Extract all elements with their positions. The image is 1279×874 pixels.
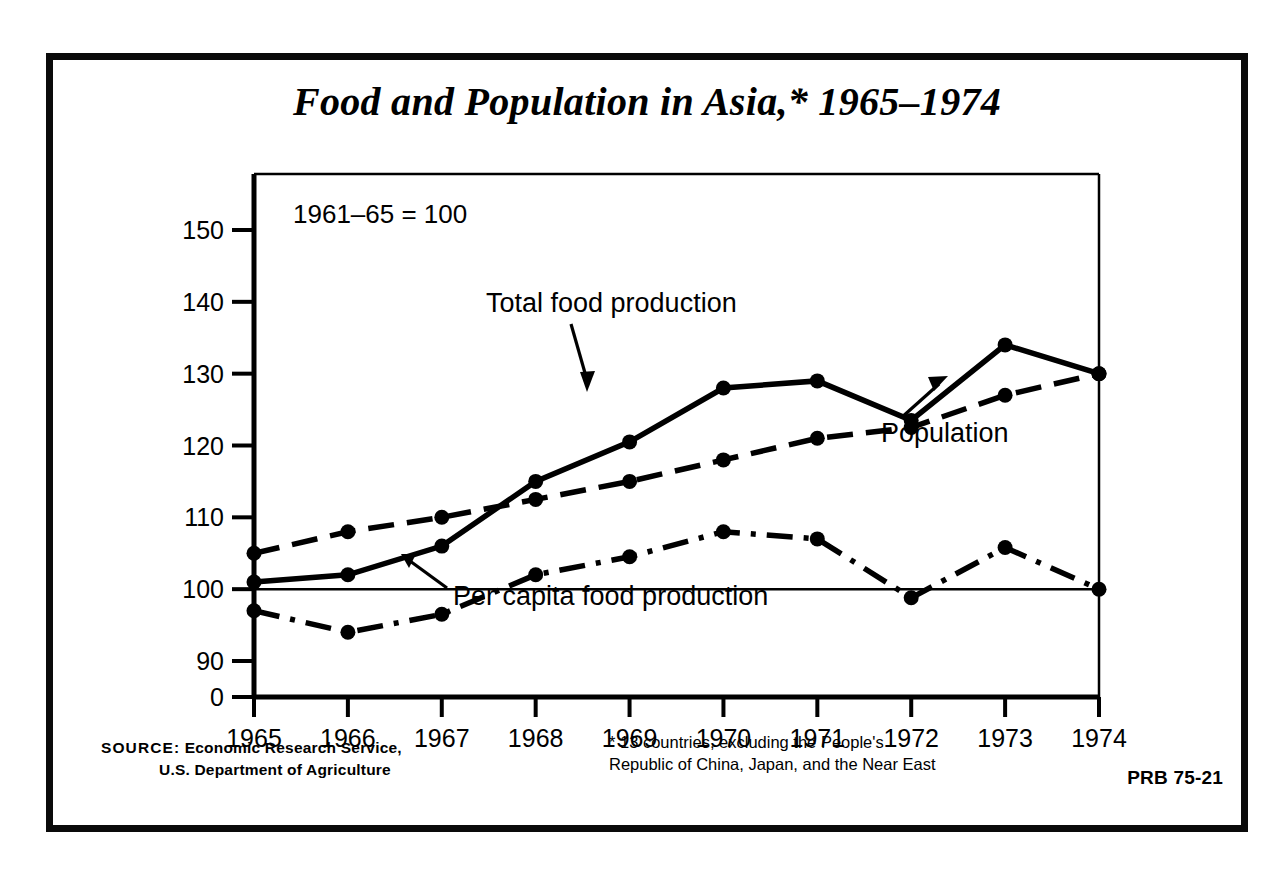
annotation-per-capita: Per capita food production [401,554,768,611]
data-point-marker [528,474,543,489]
data-point-marker [340,567,355,582]
y-tick-label: 140 [182,288,224,316]
data-point-marker [434,510,449,525]
series-solid [247,337,1107,589]
y-tick-label: 90 [196,647,224,675]
population-arrowhead [928,376,948,391]
data-point-marker [998,337,1013,352]
y-tick-label: 130 [182,360,224,388]
total-food-arrow [571,324,587,380]
per-capita-arrowhead [401,554,416,568]
y-axis-ticks: 090100110120130140150 [182,216,254,711]
data-point-marker [340,524,355,539]
data-point-marker [622,434,637,449]
per-capita-arrow [410,561,447,588]
data-point-marker [247,603,262,618]
annotation-total-food: Total food production [486,288,737,392]
total-food-arrowhead [580,371,595,392]
data-point-marker [1092,366,1107,381]
series-line [254,374,1099,554]
data-point-marker [247,546,262,561]
population-label: Population [881,418,1009,448]
data-point-marker [247,575,262,590]
y-tick-label: 150 [182,216,224,244]
data-point-marker [716,452,731,467]
series-dashed [247,366,1107,561]
data-point-marker [340,625,355,640]
y-tick-label: 100 [182,575,224,603]
y-tick-label: 120 [182,432,224,460]
chart-container: 090100110120130140150 196519661967196819… [53,60,1255,839]
data-point-marker [622,474,637,489]
data-point-marker [434,539,449,554]
footer-block: SOURCE: Economic Research Service, U.S. … [53,731,1241,811]
source-line-1: Economic Research Service, [180,739,402,756]
data-point-marker [810,531,825,546]
data-point-marker [716,381,731,396]
y-tick-label: 0 [210,683,224,711]
source-line-2: U.S. Department of Agriculture [101,759,402,781]
publication-code: PRB 75-21 [1127,767,1223,789]
line-chart: 090100110120130140150 196519661967196819… [53,60,1255,839]
data-point-marker [1092,582,1107,597]
index-base-note: 1961–65 = 100 [293,199,467,229]
footnote-asterisk: * 13 countries, excluding the People's R… [609,731,939,776]
poster-frame: Food and Population in Asia,* 1965–1974 … [46,53,1248,832]
poster-canvas: Food and Population in Asia,* 1965–1974 … [0,0,1279,874]
data-point-marker [528,492,543,507]
data-point-marker [904,590,919,605]
data-point-marker [998,388,1013,403]
y-tick-label: 110 [184,503,224,531]
data-point-marker [622,549,637,564]
data-point-marker [998,540,1013,555]
data-point-marker [810,431,825,446]
data-point-marker [716,524,731,539]
annotation-population: Population [881,376,1009,448]
source-lead: SOURCE: [101,739,180,756]
per-capita-label: Per capita food production [453,581,768,611]
source-note: SOURCE: Economic Research Service, U.S. … [101,737,402,782]
data-point-marker [810,373,825,388]
total-food-label: Total food production [486,288,737,318]
data-point-marker [434,607,449,622]
